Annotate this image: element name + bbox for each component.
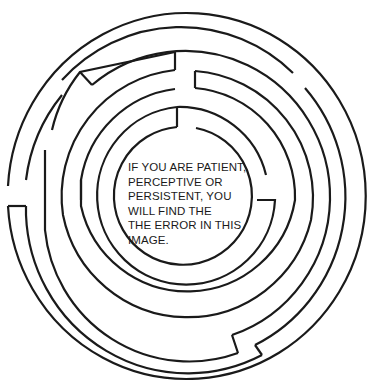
message-line-2: PERCEPTIVE OR <box>128 175 268 190</box>
maze-connector <box>255 345 262 355</box>
maze-connector <box>80 72 92 85</box>
maze-connector <box>232 335 238 353</box>
message-line-1: IF YOU ARE PATIENT, <box>128 160 268 175</box>
message-line-5: THE ERROR IN THIS <box>128 218 268 233</box>
message-line-4: WILL FIND THE <box>128 204 268 219</box>
message-line-3: PERSISTENT, YOU <box>128 189 268 204</box>
message-line-6: IMAGE. <box>128 233 268 248</box>
puzzle-message: IF YOU ARE PATIENT, PERCEPTIVE OR PERSIS… <box>128 160 268 247</box>
